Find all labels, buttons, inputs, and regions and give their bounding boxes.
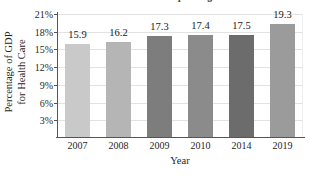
x-tick-label: 2019 [273, 140, 293, 151]
y-tick-mark [54, 67, 58, 68]
bar-value-label: 17.4 [191, 20, 209, 31]
y-tick-mark [54, 103, 58, 104]
gridline [57, 49, 303, 50]
y-tick-label: 12% [35, 62, 53, 73]
y-tick-mark [54, 120, 58, 121]
gridline [57, 67, 303, 68]
y-axis-tick-labels: 3%6%9%12%15%18%21% [28, 0, 55, 175]
y-tick-mark [54, 49, 58, 50]
gridline [57, 85, 303, 86]
plot-right-border [302, 14, 303, 138]
bar[interactable] [65, 44, 90, 138]
y-tick-label: 15% [35, 44, 53, 55]
gridline [57, 14, 303, 15]
x-axis-line [56, 137, 305, 138]
x-tick-label: 2010 [191, 140, 211, 151]
bar-chart-figure: U.S. Health Care Spending Percentage of … [0, 0, 310, 175]
y-axis-title-line-2: for Health Care [15, 31, 28, 112]
bar[interactable] [229, 35, 254, 138]
y-tick-label: 3% [40, 115, 53, 126]
plot-area: 15.916.217.317.417.519.3 [57, 14, 303, 138]
bar-value-label: 19.3 [273, 9, 291, 20]
x-tick-label: 2014 [232, 140, 252, 151]
gridline [57, 103, 303, 104]
bar-value-label: 15.9 [68, 29, 86, 40]
x-axis-tick-labels: 200720082009201020142019 [57, 140, 303, 154]
bar[interactable] [270, 24, 295, 138]
y-axis-title-text: Percentage of GDP for Health Care [3, 31, 28, 112]
bar-value-label: 16.2 [109, 27, 127, 38]
y-tick-label: 21% [35, 9, 53, 20]
gridline [57, 120, 303, 121]
y-tick-label: 9% [40, 79, 53, 90]
x-axis-title: Year [57, 155, 303, 166]
bar[interactable] [106, 42, 131, 138]
bar-value-label: 17.3 [150, 21, 168, 32]
gridline [57, 32, 303, 33]
x-tick-label: 2008 [109, 140, 129, 151]
y-tick-mark [54, 85, 58, 86]
x-tick-label: 2009 [150, 140, 170, 151]
bar[interactable] [147, 36, 172, 138]
bar-value-label: 17.5 [232, 20, 250, 31]
y-tick-mark [54, 32, 58, 33]
y-axis-title: Percentage of GDP for Health Care [0, 6, 30, 138]
y-tick-mark [54, 14, 58, 15]
x-tick-label: 2007 [68, 140, 88, 151]
y-tick-label: 6% [40, 97, 53, 108]
bar[interactable] [188, 35, 213, 138]
y-tick-label: 18% [35, 26, 53, 37]
y-axis-title-line-1: Percentage of GDP [3, 31, 14, 112]
